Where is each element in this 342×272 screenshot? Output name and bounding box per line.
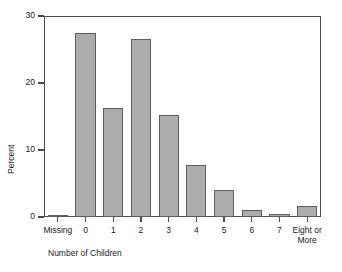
x-axis-tick-mark — [196, 217, 197, 222]
x-axis-tick-label: Eight or More — [292, 225, 321, 245]
x-axis-tick-label: 4 — [194, 225, 199, 235]
x-axis-tick-mark — [140, 217, 141, 222]
x-axis-tick-label: 5 — [222, 225, 227, 235]
bar — [75, 33, 95, 217]
y-axis-tick-label: 10 — [26, 145, 35, 154]
x-axis-tick-label: 7 — [277, 225, 282, 235]
bar-chart: 0102030 Percent Number of Children Missi… — [0, 0, 342, 272]
y-axis-tick-label: 30 — [26, 11, 35, 20]
x-axis-tick-label: 3 — [166, 225, 171, 235]
bar — [159, 115, 179, 217]
x-axis-tick-label: 0 — [83, 225, 88, 235]
bar — [214, 190, 234, 217]
bar — [242, 210, 262, 217]
x-axis-title: Number of Children — [48, 249, 122, 258]
x-axis-tick-label: 1 — [111, 225, 116, 235]
bar — [103, 108, 123, 217]
bar — [186, 165, 206, 217]
x-axis-tick-label: Missing — [43, 225, 72, 235]
y-axis-title: Percent — [7, 145, 16, 174]
y-axis-tick-label: 20 — [26, 78, 35, 87]
x-axis-tick-label: 6 — [249, 225, 254, 235]
x-axis-tick-mark — [307, 217, 308, 222]
x-axis-tick-mark — [168, 217, 169, 222]
x-axis-tick-label: 2 — [139, 225, 144, 235]
bar — [297, 206, 317, 217]
y-axis-tick-label: 0 — [30, 212, 35, 221]
bar — [131, 39, 151, 217]
x-axis-tick-mark — [279, 217, 280, 222]
x-axis-tick-mark — [85, 217, 86, 222]
x-axis-tick-mark — [251, 217, 252, 222]
plot-area — [44, 16, 321, 217]
y-axis: 0102030 — [0, 0, 44, 272]
x-axis-tick-mark — [57, 217, 58, 222]
x-axis-tick-mark — [113, 217, 114, 222]
x-axis-tick-mark — [223, 217, 224, 222]
